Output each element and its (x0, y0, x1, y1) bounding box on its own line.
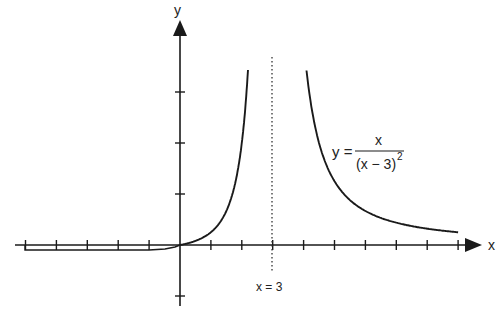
equation-lhs: y = (332, 143, 353, 160)
function-graph: x y x = 3 y = x (x − 3) 2 (0, 0, 501, 320)
x-axis-label: x (488, 237, 495, 253)
equation-label: y = x (x − 3) 2 (332, 132, 404, 172)
x-axis-arrow-icon (465, 238, 482, 252)
asymptote-label: x = 3 (256, 280, 283, 294)
equation-numerator: x (375, 132, 382, 148)
y-axis-arrow-icon (173, 20, 187, 36)
equation-denominator: (x − 3) (356, 156, 396, 172)
y-axis-label: y (174, 2, 181, 18)
equation-exponent: 2 (397, 151, 403, 162)
curve-left-branch (180, 70, 248, 245)
